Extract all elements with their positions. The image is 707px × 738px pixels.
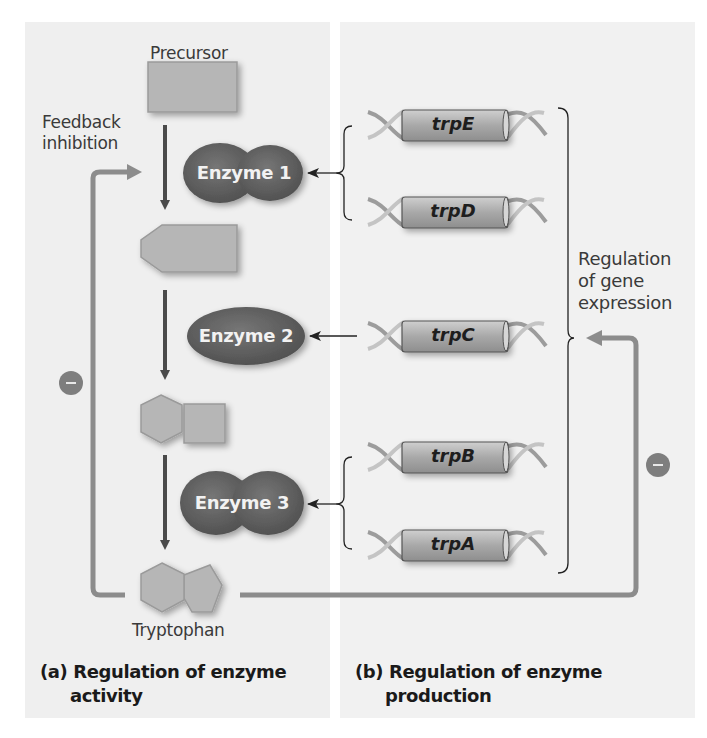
precursor-molecule xyxy=(148,62,237,112)
caption-a-line1: Regulation of enzyme xyxy=(73,661,286,682)
bracket-enzyme-1 xyxy=(308,126,352,220)
tryptophan-molecule xyxy=(141,563,222,612)
gene-label-trpC: trpC xyxy=(400,324,506,345)
enzyme-2-label: Enzyme 2 xyxy=(186,325,306,346)
caption-b-line1: Regulation of enzyme xyxy=(389,661,602,682)
minus-icon-feedback xyxy=(59,371,83,395)
feedback-inhibition-line xyxy=(93,172,128,595)
caption-b-line2: production xyxy=(355,684,602,708)
gene-label-trpD: trpD xyxy=(400,200,506,221)
caption-panel-b: (b) Regulation of enzyme production xyxy=(355,660,602,708)
gene-regulation-line1: Regulation xyxy=(578,248,671,269)
gene-regulation-line2: of gene xyxy=(578,270,644,291)
feedback-inhibition-label: Feedback inhibition xyxy=(42,112,121,154)
caption-panel-a: (a) Regulation of enzyme activity xyxy=(40,660,286,708)
bracket-enzyme-3 xyxy=(308,457,352,549)
gene-regulation-label: Regulation of gene expression xyxy=(578,248,672,314)
intermediate-2-molecule xyxy=(141,395,225,443)
enzyme-3-label: Enzyme 3 xyxy=(180,492,304,513)
caption-b-prefix: (b) xyxy=(355,661,383,682)
gene-expression-bracket xyxy=(558,108,574,573)
gene-label-trpB: trpB xyxy=(400,445,506,466)
gene-label-trpA: trpA xyxy=(400,533,506,554)
gene-label-trpE: trpE xyxy=(400,113,506,134)
tryptophan-label: Tryptophan xyxy=(132,620,225,641)
precursor-label: Precursor xyxy=(150,43,228,64)
feedback-label-line1: Feedback xyxy=(42,112,121,132)
feedback-label-line2: inhibition xyxy=(42,133,118,153)
caption-a-line2: activity xyxy=(40,684,286,708)
diagram-graphics xyxy=(0,0,707,738)
caption-a-prefix: (a) xyxy=(40,661,67,682)
intermediate-1-molecule xyxy=(141,225,237,272)
minus-icon-gene-repression xyxy=(646,453,670,477)
gene-repression-arrowhead-icon xyxy=(586,330,602,346)
gene-regulation-line3: expression xyxy=(578,292,672,313)
feedback-arrowhead-icon xyxy=(127,164,142,180)
enzyme-1-label: Enzyme 1 xyxy=(183,162,305,183)
